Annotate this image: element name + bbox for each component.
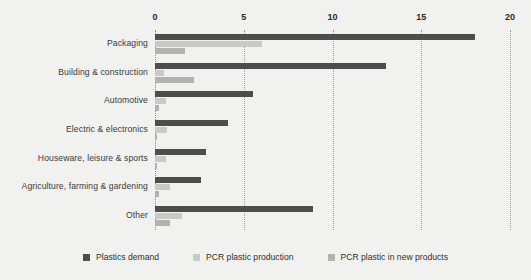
legend-label-0: Plastics demand: [96, 252, 159, 262]
x-tick-label-0: 0: [152, 12, 157, 22]
bar-5-0: [155, 177, 201, 183]
legend-item-1[interactable]: PCR plastic production: [193, 252, 293, 262]
category-label-0: Packaging: [0, 38, 148, 48]
category-label-6: Other: [0, 210, 148, 220]
bar-3-2: [155, 134, 157, 140]
category-label-5: Agriculture, farming & gardening: [0, 181, 148, 191]
bar-4-1: [155, 156, 166, 162]
bar-4-2: [155, 163, 157, 169]
category-label-4: Houseware, leisure & sports: [0, 153, 148, 163]
chart-legend: Plastics demandPCR plastic productionPCR…: [0, 252, 531, 262]
bar-6-2: [155, 220, 170, 226]
bar-0-2: [155, 48, 185, 54]
category-label-2: Automotive: [0, 95, 148, 105]
bar-5-2: [155, 191, 159, 197]
legend-swatch-icon-2: [328, 254, 335, 261]
bar-5-1: [155, 184, 170, 190]
legend-swatch-icon-1: [193, 254, 200, 261]
bar-2-1: [155, 98, 166, 104]
x-tick-label-10: 10: [327, 12, 337, 22]
legend-item-2[interactable]: PCR plastic in new products: [328, 252, 448, 262]
category-label-1: Building & construction: [0, 67, 148, 77]
bar-0-0: [155, 34, 475, 40]
bar-6-0: [155, 206, 313, 212]
x-tick-label-5: 5: [241, 12, 246, 22]
legend-swatch-icon-0: [83, 254, 90, 261]
x-tick-label-15: 15: [416, 12, 426, 22]
gridline-20: [510, 30, 511, 230]
gridline-5: [244, 30, 245, 230]
bar-3-0: [155, 120, 228, 126]
plot-area: [155, 30, 510, 230]
legend-label-1: PCR plastic production: [206, 252, 293, 262]
bar-3-1: [155, 127, 167, 133]
gridline-15: [421, 30, 422, 230]
legend-item-0[interactable]: Plastics demand: [83, 252, 159, 262]
bar-1-1: [155, 70, 164, 76]
bar-1-0: [155, 63, 386, 69]
bar-2-2: [155, 105, 159, 111]
legend-label-2: PCR plastic in new products: [341, 252, 448, 262]
bar-chart: 05101520 PackagingBuilding & constructio…: [0, 0, 531, 280]
x-tick-label-20: 20: [505, 12, 515, 22]
bar-6-1: [155, 213, 182, 219]
category-label-3: Electric & electronics: [0, 124, 148, 134]
bar-4-0: [155, 149, 206, 155]
bar-2-0: [155, 91, 253, 97]
gridline-10: [333, 30, 334, 230]
bar-0-1: [155, 41, 262, 47]
bar-1-2: [155, 77, 194, 83]
